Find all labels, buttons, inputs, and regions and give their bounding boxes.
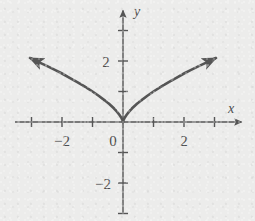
x-label-neg2: −2: [54, 133, 70, 149]
origin-label: 0: [109, 133, 117, 149]
y-label-pos2: 2: [102, 54, 110, 70]
y-axis-label: y: [132, 4, 141, 19]
coordinate-plane: y x 0 −2 2 2 −2: [0, 0, 255, 221]
tick-labels: 0 −2 2 2 −2: [54, 54, 188, 192]
x-label-pos2: 2: [180, 133, 188, 149]
y-label-neg2: −2: [95, 176, 111, 192]
curve-right-branch: [123, 58, 216, 122]
graph-figure: y x 0 −2 2 2 −2: [0, 0, 255, 221]
x-axis-label: x: [227, 101, 235, 116]
axis-labels: y x: [132, 4, 235, 116]
